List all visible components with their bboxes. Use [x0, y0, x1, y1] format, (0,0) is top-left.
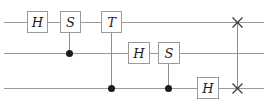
gate-h-wire3[interactable]: H [197, 77, 219, 99]
quantum-circuit-diagram: H S T H S H [0, 0, 268, 108]
gate-s-wire2[interactable]: S [158, 42, 180, 64]
gate-s-wire1[interactable]: S [60, 11, 81, 33]
swap-cross-icon-bottom[interactable] [231, 82, 244, 95]
gate-h-wire1[interactable]: H [27, 11, 48, 33]
control-dot-wire3-s[interactable] [165, 85, 172, 92]
control-line-t-gate-wire1 [111, 33, 112, 88]
gate-h-wire2[interactable]: H [128, 42, 150, 64]
swap-connector-line [237, 22, 238, 88]
qubit-wire-3 [4, 88, 264, 89]
swap-cross-icon-top[interactable] [231, 16, 244, 29]
control-dot-wire3-t[interactable] [108, 85, 115, 92]
gate-t-wire1[interactable]: T [101, 11, 122, 33]
control-dot-wire2[interactable] [66, 50, 73, 57]
